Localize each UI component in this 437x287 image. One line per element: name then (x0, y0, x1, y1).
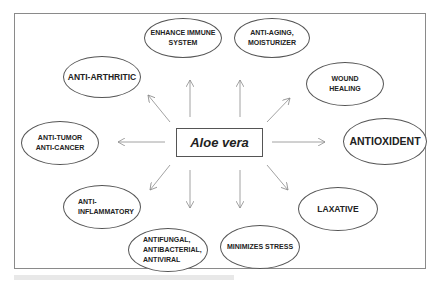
arrow-diag-up-left (148, 95, 170, 122)
node-minimizes-stress: MINIMIZES STRESS (220, 225, 300, 269)
node-anti-tumor: ANTI-TUMOR ANTI-CANCER (21, 121, 99, 165)
node-anti-arthritic: ANTI-ARTHRITIC (63, 56, 141, 98)
node-antioxident: ANTIOXIDENT (343, 118, 427, 165)
center-node-aloe-vera: Aloe vera (176, 128, 263, 157)
figure-caption-placeholder (14, 275, 234, 280)
node-enhance-immune: ENHANCE IMMUNE SYSTEM (144, 18, 222, 58)
arrow-diag-up-right (267, 98, 290, 122)
arrow-diag-down-right (267, 165, 288, 190)
node-anti-aging: ANTI-AGING, MOISTURIZER (234, 18, 310, 58)
arrow-diag-down-left (150, 165, 170, 190)
node-laxative: LAXATIVE (298, 187, 378, 231)
node-wound-healing: WOUND HEALING (306, 62, 384, 106)
node-anti-inflammatory: ANTI- INFLAMMATORY (63, 185, 141, 229)
node-antifungal: ANTIFUNGAL, ANTIBACTERIAL, ANTIVIRAL (128, 228, 208, 272)
